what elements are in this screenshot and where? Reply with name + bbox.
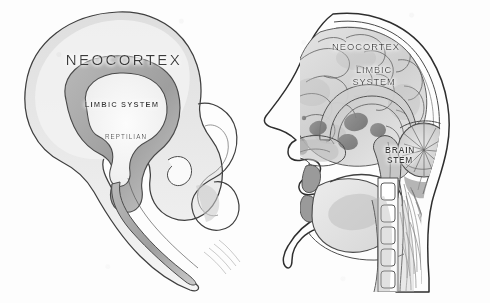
figure-canvas: NEOCORTEX LIMBIC SYSTEM REPTILIAN <box>0 0 490 303</box>
triune-brain-figure: NEOCORTEX LIMBIC SYSTEM REPTILIAN <box>0 0 490 303</box>
stem-hatching-schematic <box>204 240 240 274</box>
head-label-brainstem-line2: STEM <box>387 155 413 165</box>
head-label-neocortex: NEOCORTEX <box>332 41 400 52</box>
schematic-label-limbic-system: LIMBIC SYSTEM <box>85 100 159 109</box>
panel-sagittal-head: NEOCORTEX LIMBIC SYSTEM BRAIN STEM <box>264 13 450 292</box>
schematic-label-reptilian: REPTILIAN <box>105 133 147 140</box>
schematic-label-neocortex: NEOCORTEX <box>66 51 182 68</box>
panel-schematic: NEOCORTEX LIMBIC SYSTEM REPTILIAN <box>25 12 240 291</box>
inner-bulb-schematic <box>167 157 191 186</box>
head-label-limbic-line2: SYSTEM <box>352 77 395 87</box>
head-label-limbic-line1: LIMBIC <box>356 65 392 75</box>
head-label-brainstem-line1: BRAIN <box>385 145 415 155</box>
